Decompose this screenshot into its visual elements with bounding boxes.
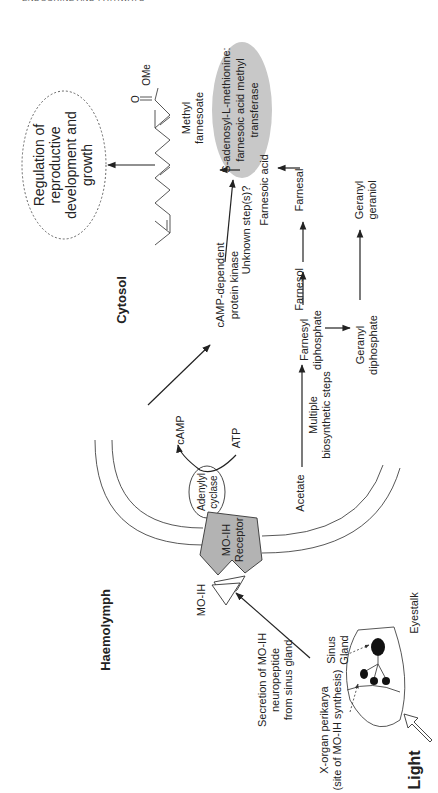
x-organ-label-2: (site of MO-IH synthesis)	[331, 669, 343, 790]
outcome-line-1: Regulation of	[31, 124, 47, 207]
light-label: Light	[406, 750, 423, 790]
haemolymph-label: Haemolymph	[98, 589, 113, 671]
outcome-line-2: reproductive	[47, 126, 63, 203]
svg-text:Adenylyl: Adenylyl	[196, 473, 207, 511]
secretion-line-1: Secretion of MO-IH	[256, 633, 268, 727]
arrow-kinase-to-mf	[225, 180, 233, 262]
kinase-label-1: cAMP-dependent	[214, 243, 226, 328]
methyl-farnesoate-structure: O OMe	[130, 64, 170, 245]
secretion-line-2: neuropeptide	[269, 648, 281, 712]
svg-text:Methyl: Methyl	[180, 102, 192, 134]
multi-steps-label-2: biosynthetic steps	[320, 371, 332, 459]
mo-ih-receptor: MO-IH Receptor	[200, 512, 262, 575]
camp-label: cAMP	[174, 415, 186, 444]
methyl-farnesoate-label: Methyl farnesoate	[180, 92, 205, 144]
svg-text:Receptor: Receptor	[233, 517, 245, 562]
geranyl-geraniol-label-2: geraniol	[366, 180, 378, 219]
sinus-gland-dot	[371, 638, 385, 656]
acetate-label: Acetate	[294, 474, 306, 511]
svg-text:transferase: transferase	[248, 82, 260, 137]
sinus-gland-label-2: Gland	[338, 635, 350, 664]
svg-text:farnesoic acid methyl: farnesoic acid methyl	[234, 58, 246, 161]
farnesyl-dp-label-2: diphosphate	[311, 310, 323, 370]
ome-label: OMe	[141, 64, 152, 86]
farnesal-label: Farnesal	[293, 169, 305, 212]
carbonyl-oxygen: O	[130, 95, 141, 103]
light-arrow-icon	[404, 714, 432, 742]
sinus-gland-label-1: Sinus	[325, 636, 337, 664]
adenylyl-cyclase: Adenylyl cyclase	[189, 466, 225, 518]
arrow-camp-to-kinase	[148, 345, 210, 405]
unknown-steps-label: Unknown step(s)?	[240, 186, 252, 275]
outcome-node: Regulation of reproductive development a…	[22, 91, 106, 239]
multi-steps-label-1: Multiple	[307, 396, 319, 434]
farnesyl-dp-label-1: Farnesyl	[298, 319, 310, 361]
kinase-label-2: protein kinase	[228, 251, 240, 320]
mo-ih-triangle-icon	[212, 583, 240, 605]
x-organ-label-1: X-organ perikarya	[318, 685, 330, 773]
mo-ih-pathway-diagram: Regulation of reproductive development a…	[0, 0, 438, 793]
svg-text:MO-IH: MO-IH	[220, 524, 232, 556]
geranyl-geraniol-label-1: Geranyl	[353, 181, 365, 220]
farnesoic-acid-label: Farnesoic acid	[258, 154, 270, 226]
geranyl-dp-label-2: diphosphate	[367, 315, 379, 375]
svg-text:farnesoate: farnesoate	[193, 92, 205, 144]
secretion-line-3: from sinus gland	[282, 640, 294, 721]
eyestalk-illustration	[346, 627, 405, 727]
cytosol-label: Cytosol	[114, 276, 129, 324]
atp-label: ATP	[230, 428, 242, 449]
svg-text:S-adenosyl-L-methionine:: S-adenosyl-L-methionine:	[220, 47, 232, 172]
outcome-line-4: growth	[79, 144, 95, 186]
geranyl-dp-label-1: Geranyl	[354, 326, 366, 365]
eyestalk-label: Eyestalk	[408, 592, 420, 634]
outcome-line-3: development and	[63, 111, 79, 218]
mo-ih-label: MO-IH	[195, 584, 207, 616]
svg-text:cyclase: cyclase	[208, 475, 219, 509]
